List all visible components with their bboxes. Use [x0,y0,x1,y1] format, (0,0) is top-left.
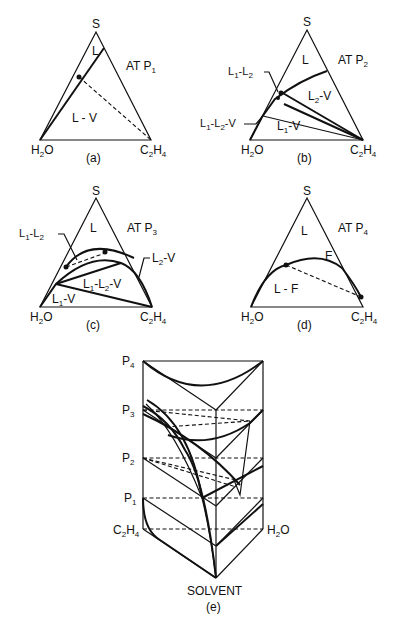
t: 1 [132,498,136,507]
t: C [350,143,359,157]
panel-d-triangle [251,198,364,307]
t: 4 [135,530,139,539]
caption-b: (b) [297,152,312,164]
t: 2 [250,317,254,326]
t: 2 [276,530,280,539]
condition-c: AT P3 [127,222,157,234]
panel-e-prism [143,361,263,578]
t: H [364,310,373,324]
pressure-p2: P2 [122,452,134,464]
t: H [241,310,250,324]
vertex-s-b: S [303,16,311,28]
condition-a: AT P1 [126,60,156,72]
region-l1l2v-c: L1-L2-V [83,278,121,290]
t: 4 [373,317,377,326]
region-l-c: L [90,222,97,234]
t: V [292,119,300,133]
region-l-b: L [302,54,309,66]
t: C [351,310,360,324]
t: 2 [149,150,153,159]
t: 1 [234,71,238,80]
t: H [241,143,250,157]
vertex-s-c: S [92,185,100,197]
t: 2 [130,458,134,467]
t: H [363,143,372,157]
t: V [323,89,331,103]
t: 2 [149,317,153,326]
t: L [98,277,105,291]
callout-l1-l2-b: L1-L2 [228,66,253,77]
condition-b: AT P2 [338,54,368,66]
region-l1v-b: L1-V [277,120,300,132]
phase-diagram-canvas [0,0,407,631]
t: H [126,523,135,537]
t: 2 [360,317,364,326]
region-lf-d: L - F [274,283,298,295]
panel-b-triangle [244,30,363,140]
t: 4 [364,228,368,237]
t: 2 [159,258,163,267]
pressure-p4: P4 [122,355,134,367]
t: AT P [127,221,153,235]
vertex-c2h4-d: C2H4 [351,311,377,323]
condition-sub: 1 [152,66,156,75]
t: V [113,277,121,291]
vertex-c2h4-c: C2H4 [140,311,166,323]
base-h2o: H2O [267,524,289,536]
t: V [229,117,236,129]
t: 2 [248,71,252,80]
t: 2 [40,150,44,159]
t: 2 [105,284,109,293]
region-l-d: L [301,225,308,237]
t: 2 [315,96,319,105]
callout-l1-l2-c: L1-L2 [19,228,44,239]
t: H [30,310,39,324]
t: 2 [39,233,43,242]
condition-text: AT P [126,59,152,73]
caption-c: (c) [86,319,100,331]
t: 1 [90,284,94,293]
vertex-h2o-a: H2O [31,144,53,156]
t: 4 [162,317,166,326]
t: V [67,292,75,306]
region-l2v-b: L2-V [308,90,331,102]
t: 1 [284,126,288,135]
t: O [43,310,52,324]
t: O [254,143,263,157]
t: O [44,143,53,157]
t: 4 [162,150,166,159]
t: O [280,523,289,537]
vertex-h2o-b: H2O [241,144,263,156]
t: 2 [250,150,254,159]
vertex-s-d: S [303,185,311,197]
t: 3 [153,228,157,237]
t: 2 [220,123,224,132]
t: L [308,89,315,103]
pressure-p3: P3 [122,404,134,416]
t: 2 [364,60,368,69]
t: C [140,143,149,157]
t: 1 [206,123,210,132]
t: AT P [338,53,364,67]
region-l1v-c: L1-V [52,293,75,305]
t: 1 [59,299,63,308]
vertex-h2o-c: H2O [30,311,52,323]
base-solvent: SOLVENT [187,585,242,597]
t: C [113,523,122,537]
t: L [277,119,284,133]
caption-d: (d) [297,319,312,331]
vertex-c2h4-a: C2H4 [140,144,166,156]
t: P [122,354,130,368]
t: V [167,251,175,265]
t: 3 [130,410,134,419]
callout-l2v-c: L2-V [152,252,175,264]
t: H [153,310,162,324]
pressure-p1: P1 [124,492,136,504]
t: 4 [130,361,134,370]
t: L [83,277,90,291]
t: 2 [359,150,363,159]
t: 4 [372,150,376,159]
vertex-s-a: S [92,18,100,30]
t: AT P [338,221,364,235]
vertex-c2h4-b: C2H4 [350,144,376,156]
